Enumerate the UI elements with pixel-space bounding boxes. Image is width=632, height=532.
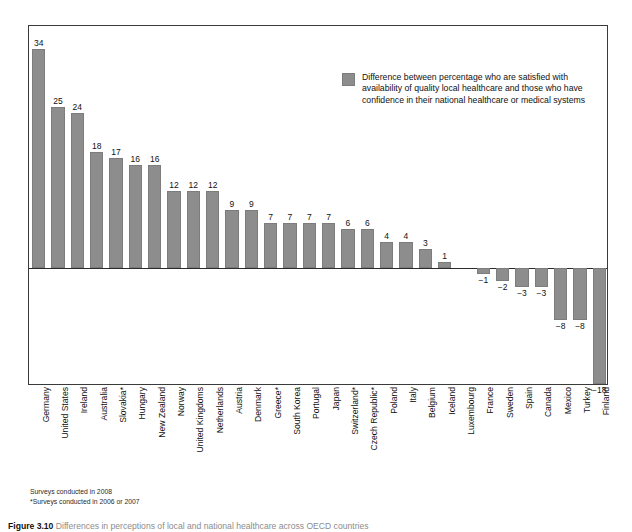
- bar-rect: [32, 49, 45, 268]
- bar-rect: [515, 268, 528, 287]
- x-axis-label-slot: New Zealand: [144, 387, 163, 482]
- x-axis-label-slot: Japan: [318, 387, 337, 482]
- bar-rect: [380, 242, 393, 268]
- x-axis-label-slot: United Kingdoms: [183, 387, 202, 482]
- x-axis-label-slot: Canada: [531, 387, 550, 482]
- x-axis-label-slot: Austria: [221, 387, 240, 482]
- footnote-line-2: *Surveys conducted in 2006 or 2007: [30, 497, 140, 507]
- bar-rect: [109, 158, 122, 268]
- bar-rect: [477, 268, 490, 274]
- x-axis-label-slot: Portugal: [299, 387, 318, 482]
- bar-rect: [129, 165, 142, 268]
- x-axis-label-slot: Czech Republic*: [357, 387, 376, 482]
- x-axis-label-slot: Hungary: [125, 387, 144, 482]
- x-axis-label-slot: Belgium: [415, 387, 434, 482]
- chart-plot-area: 34252418171616121212997777664431−1−2−3−3…: [28, 25, 608, 385]
- x-axis-label: Finland: [602, 387, 611, 415]
- legend-color-swatch: [342, 73, 355, 86]
- bar-slovakia: 17: [109, 26, 122, 384]
- bar-germany: 34: [32, 26, 45, 384]
- x-axis-label-slot: Poland: [376, 387, 395, 482]
- x-axis-label-slot: Ireland: [67, 387, 86, 482]
- bar-rect: [438, 262, 451, 268]
- x-axis-label-slot: Italy: [395, 387, 414, 482]
- figure-caption-label: Figure 3.10: [8, 521, 53, 531]
- bar-rect: [283, 223, 296, 268]
- bar-rect: [554, 268, 567, 320]
- x-axis-label-slot: Norway: [163, 387, 182, 482]
- x-axis-label-slot: Netherlands: [202, 387, 221, 482]
- footnote-line-1: Surveys conducted in 2008: [30, 487, 140, 497]
- x-axis-label-slot: Luxembourg: [453, 387, 472, 482]
- x-axis-label-slot: Sweden: [492, 387, 511, 482]
- x-axis-label-slot: Mexico: [550, 387, 569, 482]
- bar-rect: [496, 268, 509, 281]
- x-axis-label-slot: Turkey: [569, 387, 588, 482]
- bar-norway: 12: [167, 26, 180, 384]
- bar-ireland: 24: [71, 26, 84, 384]
- x-axis-label-slot: Denmark: [241, 387, 260, 482]
- chart-legend: Difference between percentage who are sa…: [342, 72, 607, 106]
- figure-caption-text: Differences in perceptions of local and …: [56, 521, 369, 531]
- bar-rect: [187, 191, 200, 268]
- x-axis-label-slot: Germany: [28, 387, 47, 482]
- bar-rect: [167, 191, 180, 268]
- x-axis-label-slot: France: [473, 387, 492, 482]
- bar-portugal: 7: [303, 26, 316, 384]
- bar-rect: [264, 223, 277, 268]
- x-axis-label-slot: South Korea: [279, 387, 298, 482]
- x-axis-label-slot: Australia: [86, 387, 105, 482]
- x-axis-label-slot: Finland: [589, 387, 608, 482]
- bar-greece: 7: [264, 26, 277, 384]
- bar-new-zealand: 16: [148, 26, 161, 384]
- bar-rect: [341, 229, 354, 268]
- bar-rect: [573, 268, 586, 320]
- bar-rect: [71, 113, 84, 268]
- figure-caption: Figure 3.10 Differences in perceptions o…: [8, 521, 624, 532]
- x-axis-label-slot: Spain: [511, 387, 530, 482]
- bar-australia: 18: [90, 26, 103, 384]
- bar-rect: [303, 223, 316, 268]
- bar-rect: [51, 107, 64, 268]
- x-axis-label-slot: Switzerland*: [337, 387, 356, 482]
- x-axis-label-slot: Iceland: [434, 387, 453, 482]
- chart-footnotes: Surveys conducted in 2008 *Surveys condu…: [30, 487, 140, 506]
- bar-south-korea: 7: [283, 26, 296, 384]
- x-axis-label-slot: United States: [47, 387, 66, 482]
- x-axis-label-slot: Greece*: [260, 387, 279, 482]
- bar-denmark: 9: [245, 26, 258, 384]
- bar-rect: [535, 268, 548, 287]
- legend-label: Difference between percentage who are sa…: [362, 72, 607, 106]
- x-axis-labels: GermanyUnited StatesIrelandAustraliaSlov…: [28, 387, 608, 482]
- bar-united-states: 25: [51, 26, 64, 384]
- bar-japan: 7: [322, 26, 335, 384]
- bar-rect: [593, 268, 606, 384]
- bar-hungary: 16: [129, 26, 142, 384]
- bar-rect: [90, 152, 103, 268]
- x-axis-label-slot: Slovakia*: [105, 387, 124, 482]
- bar-rect: [225, 210, 238, 268]
- bar-rect: [322, 223, 335, 268]
- bar-united-kingdoms: 12: [187, 26, 200, 384]
